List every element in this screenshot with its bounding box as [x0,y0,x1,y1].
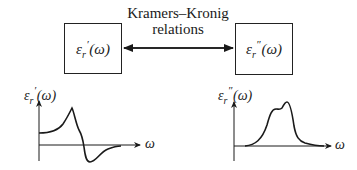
imaginary-part-curve [245,102,324,146]
right-plot-xlabel: ω [335,137,345,153]
kramers-kronig-line2: relations [122,21,234,37]
imaginary-permittivity-box: εr″(ω) [235,23,293,75]
left-plot-ylabel: εr′(ω) [24,84,56,106]
real-permittivity-box: εr′(ω) [64,23,122,74]
real-part-curve [39,108,121,162]
kramers-kronig-label: Kramers–Kronig relations [122,5,234,37]
imaginary-permittivity-label: εr″(ω) [246,38,282,60]
right-plot-ylabel: εr″(ω) [218,84,252,106]
kramers-kronig-line1: Kramers–Kronig [122,5,234,21]
real-permittivity-label: εr′(ω) [76,38,110,60]
right-plot-axes [234,102,331,161]
left-plot-xlabel: ω [145,136,155,152]
